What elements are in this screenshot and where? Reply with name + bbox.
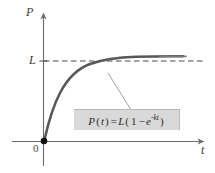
x-axis-label: t bbox=[201, 144, 204, 156]
y-axis-label: P bbox=[26, 6, 33, 18]
formula-group-close: ) bbox=[159, 115, 165, 127]
callout-leader-line bbox=[108, 73, 131, 109]
formula-lhs-close: ) bbox=[104, 115, 110, 127]
formula-equals: = bbox=[110, 115, 118, 127]
origin-point-dot bbox=[41, 138, 48, 145]
exponential-growth-figure: P t L 0 P(t)=L(1−e-kt) bbox=[0, 0, 215, 173]
origin-label: 0 bbox=[33, 143, 39, 154]
formula-text: P(t)=L(1−e-kt) bbox=[88, 113, 164, 127]
formula-exponent: -kt bbox=[151, 113, 159, 122]
formula-one: 1 bbox=[130, 115, 138, 127]
formula-callout-box: P(t)=L(1−e-kt) bbox=[74, 109, 180, 130]
asymptote-label: L bbox=[29, 54, 36, 66]
formula-minus: − bbox=[138, 115, 146, 127]
